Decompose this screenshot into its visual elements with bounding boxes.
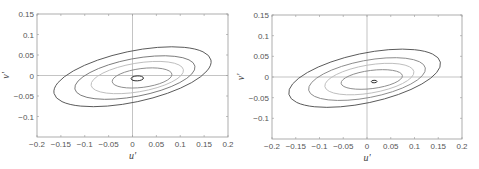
x-tick-label: 0.15 [196, 140, 212, 149]
y-axis-label: v' [235, 73, 246, 80]
x-tick-label: −0.1 [312, 142, 328, 151]
y-tick-label: 0.05 [18, 51, 34, 60]
x-tick-label: 0.05 [383, 142, 399, 151]
x-tick-label: 0 [130, 140, 135, 149]
x-tick-label: −0.2 [264, 142, 280, 151]
y-tick-label: 0.05 [253, 52, 269, 61]
x-tick-label: 0.2 [222, 140, 234, 149]
x-tick-label: −0.15 [51, 140, 72, 149]
y-axis-label: v' [0, 71, 11, 78]
x-axis-label: u' [363, 152, 371, 163]
x-tick-label: −0.2 [29, 140, 45, 149]
y-tick-label: 0.15 [253, 11, 269, 20]
x-axis-label: u' [129, 150, 137, 161]
x-tick-label: −0.05 [333, 142, 354, 151]
y-tick-label: −0.05 [14, 92, 35, 101]
y-tick-label: −0.1 [18, 113, 34, 122]
y-tick-label: 0.1 [258, 32, 270, 41]
x-tick-label: 0 [365, 142, 370, 151]
contour-line [89, 56, 186, 100]
x-tick-label: −0.15 [286, 142, 307, 151]
contour-line [111, 65, 173, 91]
chart-panel-2: −0.2−0.15−0.1−0.0500.050.10.150.20.150.1… [235, 11, 468, 163]
y-tick-label: −0.1 [253, 114, 269, 123]
contour-line [340, 67, 404, 93]
y-tick-label: 0.15 [18, 10, 34, 19]
y-tick-label: −0.05 [249, 94, 270, 103]
x-tick-label: 0.05 [149, 140, 165, 149]
x-tick-label: 0.2 [456, 142, 468, 151]
x-tick-label: −0.05 [99, 140, 120, 149]
x-tick-label: 0.1 [409, 142, 421, 151]
y-tick-label: 0.1 [23, 31, 35, 40]
chart-panel-1: −0.2−0.15−0.1−0.0500.050.10.150.20.150.1… [0, 10, 234, 161]
x-tick-label: 0.1 [175, 140, 187, 149]
contour-figure: −0.2−0.15−0.1−0.0500.050.10.150.20.150.1… [0, 0, 479, 169]
y-tick-label: 0 [265, 73, 270, 82]
y-tick-label: 0 [30, 72, 35, 81]
contour-line [323, 58, 417, 101]
x-tick-label: 0.15 [430, 142, 446, 151]
x-tick-label: −0.1 [77, 140, 93, 149]
contour-line [371, 80, 377, 83]
contour-line [284, 38, 446, 119]
